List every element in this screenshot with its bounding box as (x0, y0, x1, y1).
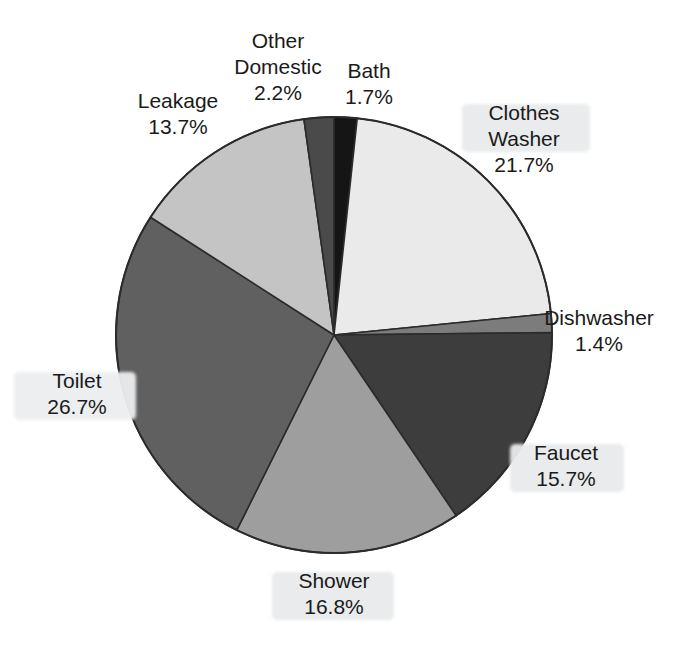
pie-chart-figure: Other Domestic 2.2% Bath 1.7% Leakage 13… (0, 0, 690, 649)
slice-label-dishwasher-value: 1.4% (524, 331, 674, 357)
slice-label-faucet-line1: Faucet (516, 440, 616, 466)
slice-label-toilet-line1: Toilet (22, 368, 132, 394)
slice-label-leakage: Leakage 13.7% (124, 88, 232, 140)
slice-label-dishwasher: Dishwasher 1.4% (524, 305, 674, 357)
slice-label-shower-line1: Shower (278, 568, 390, 594)
slice-label-faucet: Faucet 15.7% (516, 440, 616, 492)
slice-label-faucet-value: 15.7% (516, 466, 616, 492)
slice-label-clothes-washer-value: 21.7% (468, 152, 580, 178)
slice-label-other-domestic-line1: Other (218, 28, 338, 54)
slice-label-other-domestic-line2: Domestic (218, 54, 338, 80)
slice-label-shower-value: 16.8% (278, 594, 390, 620)
slice-label-clothes-washer: Clothes Washer 21.7% (468, 100, 580, 178)
slice-label-clothes-washer-line2: Washer (468, 126, 580, 152)
slice-label-bath: Bath 1.7% (334, 58, 404, 110)
slice-label-toilet: Toilet 26.7% (22, 368, 132, 420)
slice-label-leakage-value: 13.7% (124, 114, 232, 140)
slice-label-other-domestic: Other Domestic 2.2% (218, 28, 338, 106)
slice-label-bath-line1: Bath (334, 58, 404, 84)
slice-label-leakage-line1: Leakage (124, 88, 232, 114)
slice-label-other-domestic-value: 2.2% (218, 80, 338, 106)
pie-slice-group (116, 117, 552, 553)
slice-label-shower: Shower 16.8% (278, 568, 390, 620)
slice-label-dishwasher-line1: Dishwasher (524, 305, 674, 331)
slice-label-clothes-washer-line1: Clothes (468, 100, 580, 126)
slice-label-bath-value: 1.7% (334, 84, 404, 110)
slice-label-toilet-value: 26.7% (22, 394, 132, 420)
